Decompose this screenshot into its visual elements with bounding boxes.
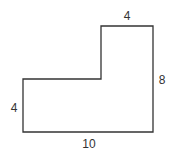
l-shape-diagram: 4 8 4 10 [0,0,174,153]
left-height-label: 4 [11,101,18,115]
right-height-label: 8 [159,73,166,87]
top-width-label: 4 [124,9,131,23]
bottom-width-label: 10 [82,137,96,151]
l-shape-outline [23,26,153,132]
